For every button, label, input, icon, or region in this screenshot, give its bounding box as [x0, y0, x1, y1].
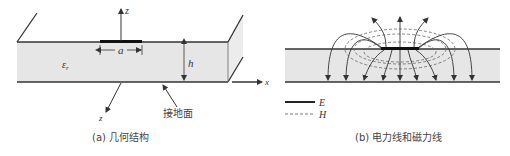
height-label: h: [188, 57, 194, 69]
caption-b: (b) 电力线和磁力线: [355, 131, 442, 143]
substrate-side: [228, 15, 243, 82]
legend-h-label: H: [318, 109, 327, 120]
legend: E H: [285, 97, 327, 120]
microstrip-figure: z a h εr z 接地面 (a) 几何结构: [0, 0, 510, 156]
left-depth-edge: [17, 13, 37, 42]
field-lines-diagram: E H x (b) 电力线和磁力线: [232, 17, 500, 143]
z-out-label: z: [98, 113, 103, 123]
width-label: a: [118, 44, 124, 56]
ground-plane-label: 接地面: [163, 107, 193, 119]
z-axis-out-arrow: [106, 83, 121, 112]
z-up-label: z: [124, 5, 129, 16]
legend-e-label: E: [318, 97, 325, 108]
x-axis-label: x: [264, 77, 269, 87]
geometry-diagram: z a h εr z 接地面 (a) 几何结构: [17, 5, 258, 143]
caption-a: (a) 几何结构: [92, 131, 149, 143]
substrate-b: [285, 49, 500, 82]
ground-plane-pointer: [163, 85, 177, 107]
microstrip-conductor-b: [381, 47, 419, 50]
